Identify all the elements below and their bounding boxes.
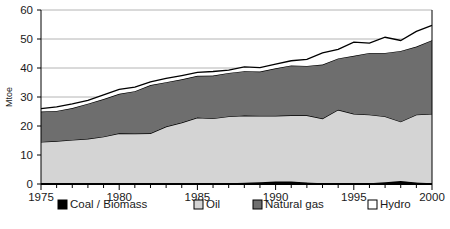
y-axis-tickmarks [37, 10, 41, 184]
y-tick-label: 30 [20, 91, 33, 103]
x-tick-label: 2000 [419, 191, 445, 203]
legend-label-oil: Oil [206, 198, 220, 210]
legend-label-coal-biomass: Coal / Biomass [70, 198, 148, 210]
y-tick-label: 60 [20, 4, 33, 16]
y-tick-label: 10 [20, 149, 33, 161]
legend-swatch-natural-gas [253, 200, 262, 209]
legend-label-hydro: Hydro [380, 198, 411, 210]
y-axis-tick-labels: 0102030405060 [20, 4, 33, 190]
chart-svg: 0102030405060 197519801985199019952000 M… [0, 0, 450, 229]
legend-swatch-oil [194, 200, 203, 209]
x-tick-label: 1995 [341, 191, 367, 203]
x-tick-label: 1975 [28, 191, 54, 203]
y-axis-title: Mtoe [4, 87, 14, 107]
legend-swatch-hydro [368, 200, 377, 209]
legend-label-natural-gas: Natural gas [265, 198, 324, 210]
y-tick-label: 50 [20, 33, 33, 45]
y-tick-label: 0 [27, 178, 33, 190]
legend-swatch-coal-biomass [58, 200, 67, 209]
stacked-area-chart: 0102030405060 197519801985199019952000 M… [0, 0, 450, 229]
y-tick-label: 40 [20, 62, 33, 74]
y-tick-label: 20 [20, 120, 33, 132]
